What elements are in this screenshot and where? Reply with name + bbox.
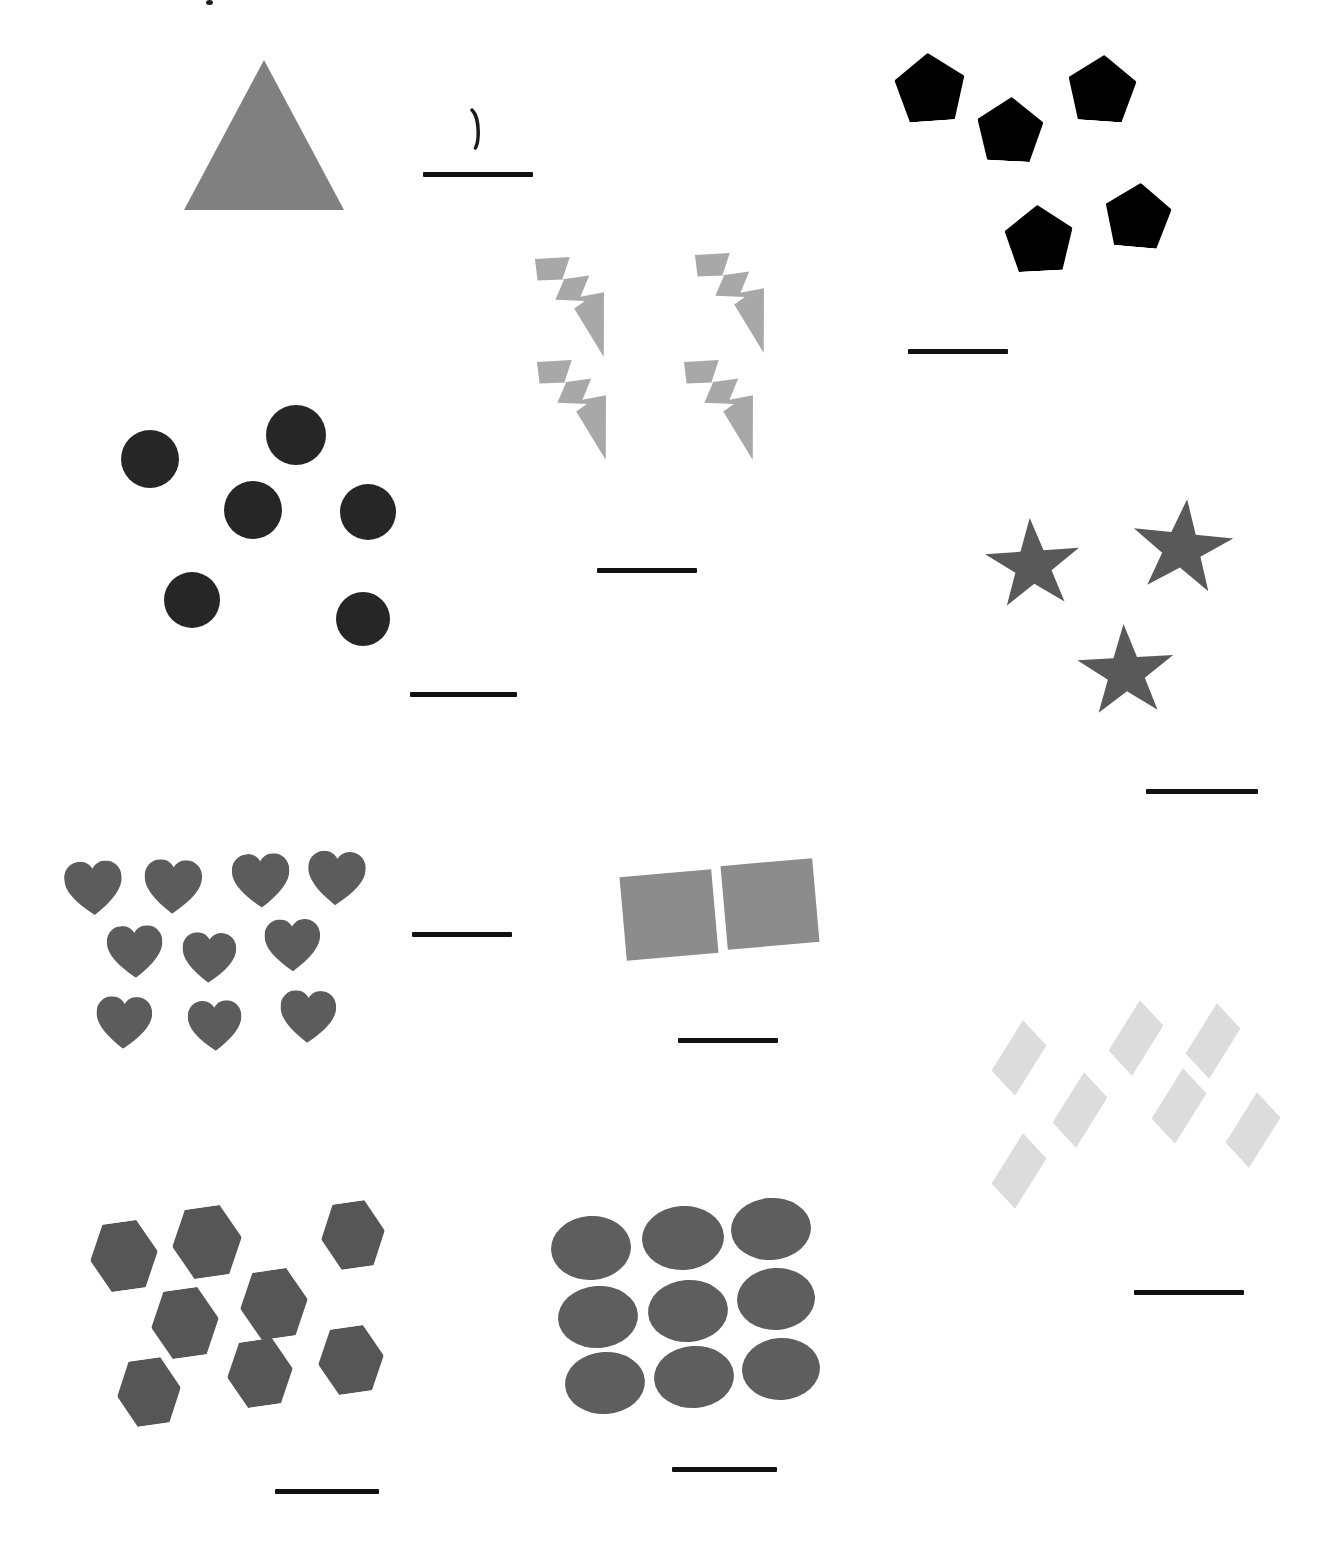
ellipse-icon	[563, 1349, 647, 1416]
ellipse-icon	[549, 1213, 633, 1282]
ellipse-icon	[740, 1335, 822, 1402]
ellipse-icon	[556, 1283, 640, 1350]
ellipse-icon	[652, 1343, 736, 1410]
ellipse-icon	[640, 1203, 726, 1273]
ellipse-icon	[729, 1195, 813, 1262]
worksheet-page	[0, 0, 1331, 1554]
answer-line-ellipse[interactable]	[672, 1467, 777, 1472]
ellipse-icon	[735, 1265, 817, 1332]
ellipse-shape-cluster	[0, 0, 1331, 1554]
ellipse-icon	[646, 1277, 730, 1344]
